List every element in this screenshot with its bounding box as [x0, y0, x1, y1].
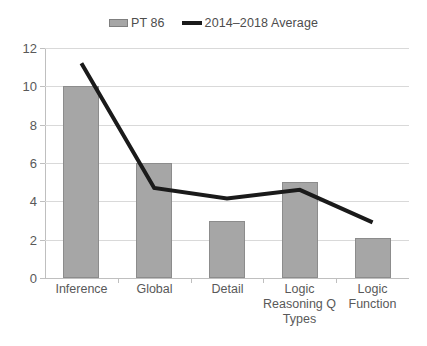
legend-item-pt-86: PT 86 [109, 16, 165, 30]
x-axis-label-line: Logic [263, 282, 336, 297]
x-axis-label: LogicReasoning QTypes [263, 282, 336, 327]
average-line-path [81, 63, 372, 222]
x-axis-label-line: Types [263, 312, 336, 327]
line-swatch-icon [182, 21, 202, 25]
x-axis-label-line: Reasoning Q [263, 297, 336, 312]
bar-swatch-icon [109, 19, 128, 27]
x-axis-label: Inference [45, 282, 118, 297]
y-axis-tick [40, 278, 45, 279]
x-axis-label-line: Detail [191, 282, 264, 297]
y-axis-tick-label: 12 [23, 41, 37, 56]
chart-container: PT 86 2014–2018 Average 024681012 Infere… [0, 0, 427, 346]
x-axis-labels: InferenceGlobalDetailLogicReasoning QTyp… [45, 282, 409, 344]
legend-item-label: PT 86 [131, 16, 165, 30]
x-axis-label-line: Logic [336, 282, 409, 297]
x-axis-label: LogicFunction [336, 282, 409, 312]
y-axis-tick-label: 6 [30, 156, 37, 171]
plot-area: 024681012 [45, 48, 409, 278]
legend-item-average: 2014–2018 Average [182, 16, 318, 30]
chart-legend: PT 86 2014–2018 Average [0, 13, 427, 33]
x-axis-label-line: Global [118, 282, 191, 297]
y-axis-tick-label: 2 [30, 232, 37, 247]
y-axis-tick-label: 4 [30, 194, 37, 209]
x-axis-line [45, 278, 409, 279]
x-axis-label-line: Inference [45, 282, 118, 297]
x-axis-label: Global [118, 282, 191, 297]
x-axis-label-line: Function [336, 297, 409, 312]
line-series-average [45, 48, 409, 278]
legend-item-label: 2014–2018 Average [205, 16, 318, 30]
y-axis-tick-label: 10 [23, 79, 37, 94]
y-axis-tick-label: 0 [30, 271, 37, 286]
y-axis-tick-label: 8 [30, 117, 37, 132]
x-axis-label: Detail [191, 282, 264, 297]
